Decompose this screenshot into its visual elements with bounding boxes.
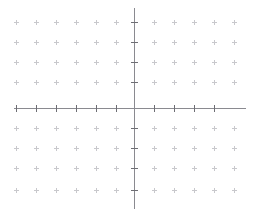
axes-layer <box>0 0 257 216</box>
coordinate-plane <box>0 0 257 216</box>
